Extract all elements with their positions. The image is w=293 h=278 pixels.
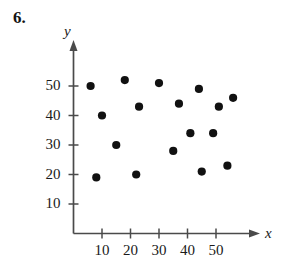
y-tick-label: 30 [35,137,61,152]
y-tick-label: 10 [35,196,61,211]
y-tick-label: 50 [35,78,61,93]
data-point [215,103,223,111]
x-tick-label: 50 [203,243,229,258]
axes-group [70,40,261,238]
data-point [175,100,183,108]
data-point [132,170,140,178]
y-tick-label: 40 [35,108,61,123]
scatter-plot-figure: 6. y x 1020304050 1020304050 [0,0,293,278]
data-point [169,147,177,155]
data-point [198,167,206,175]
data-point [195,85,203,93]
data-point [186,129,194,137]
x-tick-label: 40 [175,243,201,258]
y-axis-arrow [70,40,78,51]
data-point [135,103,143,111]
data-point [98,111,106,119]
data-point [155,79,163,87]
data-point [92,173,100,181]
y-tick-label: 20 [35,167,61,182]
x-tick-label: 10 [89,243,115,258]
data-point [121,76,129,84]
data-point [209,129,217,137]
x-tick-label: 30 [146,243,172,258]
x-tick-label: 20 [118,243,144,258]
data-point [229,94,237,102]
data-point [112,141,120,149]
data-point [87,82,95,90]
data-points-group [87,76,238,182]
x-axis-arrow [249,230,260,238]
data-point [223,162,231,170]
